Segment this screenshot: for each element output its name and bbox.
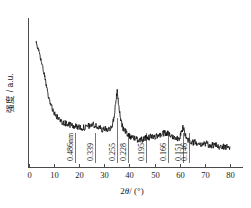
y-axis-title: 强度 / a.u. [5,73,15,112]
x-axis-title-post: / (°) [129,186,143,196]
x-axis-ticks [30,164,231,168]
x-axis-tick-label: 0 [27,170,31,180]
x-axis-tick-label: 20 [75,170,84,180]
xrd-chart-figure: 01020304050607080 0.486nm0.3390.2550.228… [0,0,251,208]
x-axis-tick-label: 80 [226,170,235,180]
dspacing-label: 0.166 [159,143,168,161]
x-axis-title: 2θ/ (°) [120,186,143,196]
x-axis-tick-label: 60 [176,170,185,180]
x-axis-tick-label: 40 [125,170,134,180]
x-axis-tick-label: 50 [151,170,160,180]
x-axis-title-group: 2θ/ (°) [120,186,143,196]
x-axis-tick-label: 10 [50,170,59,180]
dspacing-label: 0.146 [180,143,189,161]
dspacing-label: 0.255 [108,143,117,161]
x-axis-tick-label: 30 [100,170,109,180]
dspacing-label: 0.228 [119,143,128,161]
x-axis-tick-label: 70 [201,170,210,180]
y-axis-title-group: 强度 / a.u. [5,73,15,112]
x-axis-tick-labels: 01020304050607080 [27,170,234,180]
dspacing-label: 0.486nm [66,132,75,161]
dspacing-label: 0.339 [86,143,95,161]
xrd-plot-svg: 01020304050607080 0.486nm0.3390.2550.228… [0,0,251,208]
dspacing-label: 0.195 [137,143,146,161]
